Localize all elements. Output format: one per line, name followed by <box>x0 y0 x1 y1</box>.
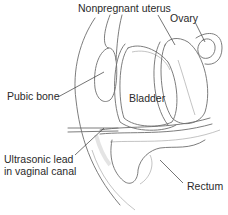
leader-ovary <box>195 22 205 42</box>
rectum-shape <box>111 140 205 183</box>
label-probe-line1: Ultrasonic lead <box>4 154 73 165</box>
body-contour <box>75 18 120 205</box>
label-ovary: Ovary <box>170 13 198 24</box>
anatomy-diagram: Nonpregnant uterus Ovary Pubic bone Blad… <box>0 0 228 215</box>
leader-pubic-bone <box>58 72 104 97</box>
label-pubic-bone: Pubic bone <box>7 91 60 102</box>
label-uterus: Nonpregnant uterus <box>78 3 171 14</box>
label-probe-line2: in vaginal canal <box>4 166 76 177</box>
leader-rectum <box>160 160 183 183</box>
label-rectum: Rectum <box>187 181 223 192</box>
label-bladder: Bladder <box>129 93 165 104</box>
ovary-shape <box>198 39 215 59</box>
pubic-bone-shape <box>95 48 117 102</box>
bladder-shape <box>120 46 177 126</box>
